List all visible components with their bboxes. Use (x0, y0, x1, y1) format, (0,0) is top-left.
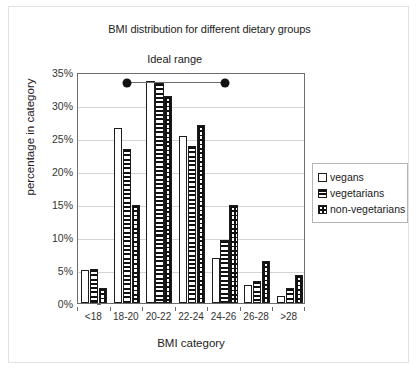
x-axis-ticks: <1818-2020-2222-2424-2626-28>28 (77, 307, 305, 329)
bar-vegetarians-22-24 (188, 146, 196, 303)
x-tick-label: 24-26 (207, 311, 240, 322)
x-tick-mark (77, 307, 78, 311)
legend-swatch-vegetarians-icon (318, 189, 327, 198)
legend-item-non-vegetarians: non-vegetarians (318, 201, 403, 217)
chart-title: BMI distribution for different dietary g… (9, 23, 410, 35)
ideal-range-annotation-label: Ideal range (66, 53, 284, 65)
chart-legend: vegans vegetarians non-vegetarians (312, 163, 408, 223)
bar-non-vegetarians-20-22 (164, 96, 172, 303)
x-tick-label: 22-24 (175, 311, 208, 322)
bar-vegetarians-28 (286, 288, 294, 303)
bar-vegetarians-26-28 (253, 281, 261, 303)
grid-line (78, 107, 304, 108)
x-tick-mark (304, 307, 305, 311)
grid-line (78, 140, 304, 141)
bar-vegans-26-28 (244, 285, 252, 303)
bar-vegetarians-24-26 (220, 240, 228, 303)
legend-item-vegans: vegans (318, 169, 403, 185)
bar-vegans-24-26 (212, 258, 220, 303)
legend-swatch-vegans-icon (318, 173, 327, 182)
bar-vegetarians-20-22 (155, 83, 163, 303)
x-axis-label: BMI category (77, 337, 305, 349)
y-tick-mark (97, 304, 101, 305)
legend-swatch-non-vegetarians-icon (318, 205, 327, 214)
bar-vegans-28 (277, 296, 285, 303)
x-tick-mark (272, 307, 273, 311)
bar-vegans-18-20 (114, 128, 122, 303)
bar-non-vegetarians-22-24 (197, 125, 205, 303)
x-tick-mark (142, 307, 143, 311)
bar-non-vegetarians-18 (99, 288, 107, 303)
y-tick-label: 30% (37, 100, 73, 112)
x-tick-mark (175, 307, 176, 311)
legend-label-vegetarians: vegetarians (330, 188, 384, 199)
bar-vegetarians-18 (90, 269, 98, 303)
chart-figure: BMI distribution for different dietary g… (8, 6, 409, 363)
y-tick-label: 25% (37, 133, 73, 145)
legend-item-vegetarians: vegetarians (318, 185, 403, 201)
x-tick-label: 26-28 (240, 311, 273, 322)
bar-vegans-20-22 (146, 81, 154, 303)
ideal-range-end-dot-icon (220, 78, 229, 87)
y-tick-label: 5% (37, 265, 73, 277)
y-tick-label: 35% (37, 67, 73, 79)
bar-vegans-22-24 (179, 136, 187, 303)
legend-label-non-vegetarians: non-vegetarians (330, 204, 405, 215)
x-tick-label: 20-22 (142, 311, 175, 322)
bar-vegetarians-18-20 (123, 149, 131, 303)
y-tick-label: 15% (37, 199, 73, 211)
bar-non-vegetarians-26-28 (262, 261, 270, 303)
x-tick-mark (240, 307, 241, 311)
ideal-range-start-dot-icon (122, 78, 131, 87)
x-tick-label: >28 (272, 311, 305, 322)
y-axis-ticks: 0%5%10%15%20%25%30%35% (33, 73, 73, 304)
bar-vegans-18 (81, 270, 89, 303)
bar-non-vegetarians-28 (295, 275, 303, 303)
plot-area (77, 73, 305, 304)
x-tick-mark (110, 307, 111, 311)
x-tick-label: 18-20 (110, 311, 143, 322)
ideal-range-line (127, 82, 225, 84)
y-tick-label: 20% (37, 166, 73, 178)
y-tick-label: 0% (37, 298, 73, 310)
bar-non-vegetarians-18-20 (132, 205, 140, 303)
legend-label-vegans: vegans (330, 172, 364, 183)
x-tick-label: <18 (77, 311, 110, 322)
x-tick-mark (207, 307, 208, 311)
y-tick-label: 10% (37, 232, 73, 244)
bar-non-vegetarians-24-26 (229, 205, 237, 303)
